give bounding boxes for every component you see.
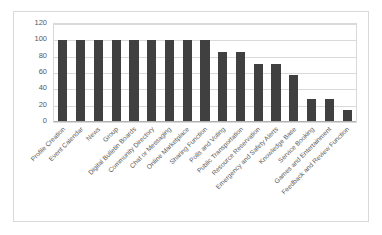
y-axis-tick-label: 80	[39, 52, 47, 60]
bar	[325, 99, 334, 122]
bar	[94, 40, 103, 122]
bar	[129, 40, 138, 122]
bar	[165, 40, 174, 122]
bar	[254, 64, 263, 122]
y-axis-tick-label: 100	[34, 36, 47, 44]
bar	[236, 52, 245, 122]
y-axis: 020406080100120	[14, 23, 50, 123]
bar	[147, 40, 156, 122]
bar	[271, 64, 280, 122]
plot-area	[53, 23, 357, 123]
gridline	[54, 122, 356, 123]
bar	[307, 99, 316, 122]
bar	[183, 40, 192, 122]
y-axis-tick-label: 40	[39, 85, 47, 93]
bar	[218, 52, 227, 122]
bar	[58, 40, 67, 122]
bar	[289, 75, 298, 122]
bar	[112, 40, 121, 122]
y-axis-tick-label: 60	[39, 68, 47, 76]
y-axis-tick-label: 120	[34, 19, 47, 27]
y-axis-tick-label: 0	[43, 117, 47, 125]
bar	[76, 40, 85, 122]
y-axis-tick-label: 20	[39, 101, 47, 109]
axis-baseline	[54, 121, 356, 122]
x-axis: Profile CreationEvent CalendarNewsGroupD…	[53, 124, 357, 222]
bar	[200, 40, 209, 122]
chart-frame: 020406080100120 Profile CreationEvent Ca…	[13, 11, 369, 222]
bar-series	[54, 24, 356, 122]
